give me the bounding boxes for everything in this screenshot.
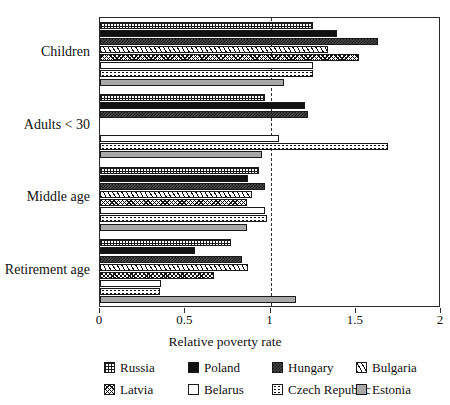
legend-swatch-czech-republic xyxy=(272,384,283,395)
category-label-middle-age: Middle age xyxy=(27,189,90,205)
bar-belarus-middle-age xyxy=(100,207,265,214)
bar-bulgaria-middle-age xyxy=(100,191,252,198)
bar-bulgaria-retirement-age xyxy=(100,264,248,271)
legend-swatch-belarus xyxy=(188,384,199,395)
category-axis-labels: ChildrenAdults < 30Middle ageRetirement … xyxy=(0,17,94,307)
bar-latvia-retirement-age xyxy=(100,272,214,279)
bar-latvia-children xyxy=(100,54,359,61)
plot-inner xyxy=(100,18,439,306)
legend-item-estonia[interactable]: Estonia xyxy=(356,379,411,399)
x-tick-label: 1.5 xyxy=(335,312,375,328)
legend-swatch-estonia xyxy=(356,384,367,395)
bar-czech-republic-children xyxy=(100,70,313,77)
bar-hungary-children xyxy=(100,38,378,45)
legend-item-bulgaria[interactable]: Bulgaria xyxy=(356,357,417,377)
legend-item-poland[interactable]: Poland xyxy=(188,357,240,377)
bar-belarus-retirement-age xyxy=(100,280,161,287)
bar-russia-middle-age xyxy=(100,167,259,174)
x-axis-tick-labels: 00.511.52 xyxy=(0,312,450,332)
bar-czech-republic-retirement-age xyxy=(100,288,160,295)
legend-label: Russia xyxy=(120,361,155,374)
poverty-rate-bar-chart: ChildrenAdults < 30Middle ageRetirement … xyxy=(0,0,450,405)
bar-poland-adults-30 xyxy=(100,102,305,109)
bar-estonia-adults-30 xyxy=(100,151,262,158)
bar-poland-retirement-age xyxy=(100,247,195,254)
legend-swatch-latvia xyxy=(104,384,115,395)
x-tick-label: 2 xyxy=(420,312,450,328)
bar-group xyxy=(100,91,439,164)
legend-item-belarus[interactable]: Belarus xyxy=(188,379,244,399)
x-axis-title: Relative poverty rate xyxy=(0,334,450,350)
category-label-children: Children xyxy=(41,44,90,60)
x-tick-label: 0.5 xyxy=(164,312,204,328)
chart-legend: RussiaPolandHungaryBulgariaLatviaBelarus… xyxy=(104,357,440,401)
category-label-adults-30: Adults < 30 xyxy=(24,117,90,133)
legend-item-russia[interactable]: Russia xyxy=(104,357,155,377)
x-tick-label: 0 xyxy=(79,312,119,328)
legend-label: Hungary xyxy=(288,361,334,374)
legend-swatch-bulgaria xyxy=(356,362,367,373)
bar-russia-children xyxy=(100,22,313,29)
bar-poland-children xyxy=(100,30,337,37)
legend-label: Estonia xyxy=(372,383,411,396)
category-label-retirement-age: Retirement age xyxy=(5,262,90,278)
bar-russia-adults-30 xyxy=(100,94,265,101)
bar-latvia-middle-age xyxy=(100,199,247,206)
bar-czech-republic-middle-age xyxy=(100,215,267,222)
legend-swatch-russia xyxy=(104,362,115,373)
bar-group xyxy=(100,18,439,91)
bar-estonia-retirement-age xyxy=(100,296,296,303)
legend-swatch-poland xyxy=(188,362,199,373)
bar-czech-republic-adults-30 xyxy=(100,143,388,150)
legend-label: Belarus xyxy=(204,383,244,396)
legend-swatch-hungary xyxy=(272,362,283,373)
bar-estonia-children xyxy=(100,79,284,86)
bar-bulgaria-children xyxy=(100,46,328,53)
bar-hungary-adults-30 xyxy=(100,111,308,118)
bar-belarus-adults-30 xyxy=(100,135,279,142)
legend-item-hungary[interactable]: Hungary xyxy=(272,357,334,377)
bar-hungary-retirement-age xyxy=(100,256,242,263)
bar-belarus-children xyxy=(100,62,313,69)
bar-hungary-middle-age xyxy=(100,183,265,190)
legend-item-latvia[interactable]: Latvia xyxy=(104,379,153,399)
legend-label: Bulgaria xyxy=(372,361,417,374)
x-tick-label: 1 xyxy=(250,312,290,328)
legend-label: Poland xyxy=(204,361,240,374)
bar-group xyxy=(100,236,439,309)
bar-poland-middle-age xyxy=(100,175,248,182)
bar-russia-retirement-age xyxy=(100,239,231,246)
legend-label: Latvia xyxy=(120,383,153,396)
bar-estonia-middle-age xyxy=(100,224,247,231)
plot-area xyxy=(99,17,440,307)
bar-group xyxy=(100,163,439,236)
